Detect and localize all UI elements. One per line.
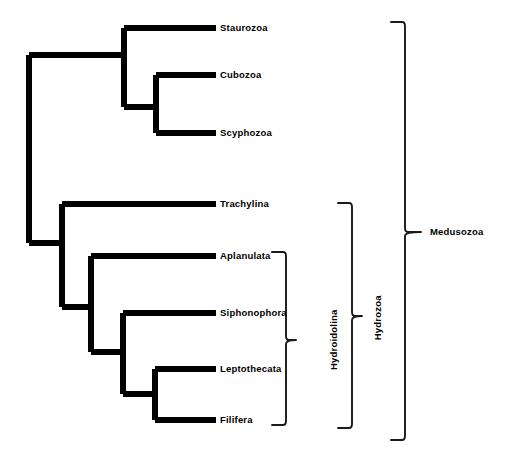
tip-label-scyphozoa: Scyphozoa (220, 128, 272, 138)
tip-label-filifera: Filifera (220, 415, 253, 425)
clade-label-medusozoa: Medusozoa (430, 227, 484, 237)
bracket-hydroidolina (272, 252, 296, 425)
clade-brackets (272, 22, 421, 440)
tip-label-siphonophora: Siphonophora (220, 308, 287, 318)
tip-label-trachylina: Trachylina (220, 199, 269, 209)
cladogram-figure: Staurozoa Cubozoa Scyphozoa Trachylina A… (0, 0, 507, 456)
tree-branches (29, 28, 216, 420)
tip-label-cubozoa: Cubozoa (220, 70, 262, 80)
tip-label-leptothecata: Leptothecata (220, 364, 282, 374)
bracket-medusozoa (391, 22, 421, 440)
bracket-hydrozoa (338, 203, 362, 428)
tip-label-staurozoa: Staurozoa (220, 23, 268, 33)
clade-label-hydroidolina: Hydroidolina (329, 309, 339, 371)
tip-label-aplanulata: Aplanulata (220, 251, 271, 261)
clade-label-hydrozoa: Hydrozoa (373, 292, 383, 344)
